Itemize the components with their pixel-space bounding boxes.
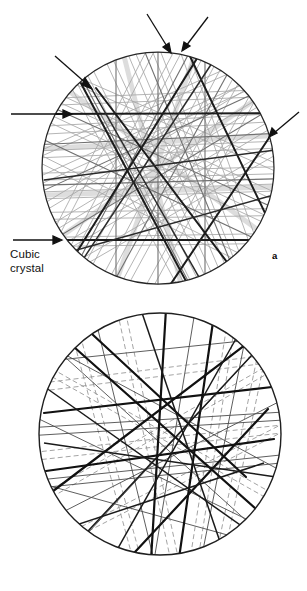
arrow-right-diagonal bbox=[269, 112, 299, 137]
panel-cubic-crystal: Cubic crystal a bbox=[0, 0, 307, 300]
cubic-band-network bbox=[10, 34, 305, 300]
arrow-top-left-diagonal bbox=[55, 56, 92, 89]
monoclinic-band-network bbox=[10, 305, 300, 585]
kikuchi-pattern-cubic bbox=[0, 0, 307, 300]
kikuchi-pattern-monoclinic bbox=[0, 295, 307, 591]
arrow-left-horizontal-lower bbox=[13, 236, 62, 244]
panel-a-letter: a bbox=[272, 250, 277, 261]
panel-a-caption: Cubic crystal bbox=[10, 248, 44, 275]
arrow-top-right-diagonal bbox=[182, 17, 208, 51]
figure-root: Cubic crystal a bbox=[0, 0, 307, 591]
panel-monoclinic-crystal: Monoclinic crystal b bbox=[0, 295, 307, 591]
arrow-left-horizontal-upper bbox=[11, 110, 72, 118]
arrow-top-center-diagonal bbox=[147, 14, 171, 53]
